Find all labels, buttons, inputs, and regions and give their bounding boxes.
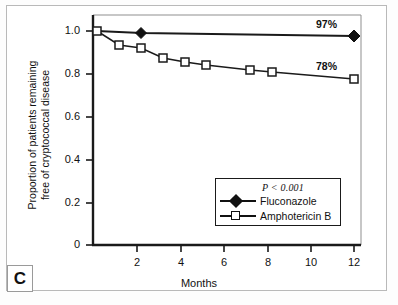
legend-entry-amphotericin-b: Amphotericin B xyxy=(216,209,340,223)
y-tick-label-0.8: 0.8 xyxy=(52,67,80,79)
x-tick-label-8: 8 xyxy=(258,256,278,268)
open-square-icon xyxy=(216,209,260,223)
x-tick-label-12: 12 xyxy=(344,256,364,268)
legend-entry-fluconazole: Fluconazole xyxy=(216,194,340,208)
filled-diamond-icon xyxy=(216,194,260,208)
legend-label-amphotericin-b: Amphotericin B xyxy=(260,210,331,222)
y-tick-label-0: 0 xyxy=(52,238,80,250)
annotation-fluconazole-97: 97% xyxy=(316,18,337,30)
annotation-amphotericin-78: 78% xyxy=(316,60,337,72)
y-axis-label: Proportion of patients remaining free of… xyxy=(26,35,52,235)
y-axis-label-line2: free of cryptococcal disease xyxy=(39,35,52,235)
y-tick-label-0.4: 0.4 xyxy=(52,153,80,165)
x-tick-label-10: 10 xyxy=(301,256,321,268)
x-tick-label-4: 4 xyxy=(171,256,191,268)
x-axis-label: Months xyxy=(0,277,398,289)
y-tick-label-0.6: 0.6 xyxy=(52,110,80,122)
panel-label: C xyxy=(7,265,33,292)
y-axis-label-line1: Proportion of patients remaining xyxy=(26,35,39,235)
x-tick-label-6: 6 xyxy=(214,256,234,268)
legend-pvalue: P < 0.001 xyxy=(262,182,340,193)
y-tick-label-1.0: 1.0 xyxy=(52,24,80,36)
y-tick-label-0.2: 0.2 xyxy=(52,196,80,208)
figure-panel: 1.0 0.8 0.6 0.4 0.2 0 2 4 6 8 10 12 Prop… xyxy=(0,0,398,305)
legend-label-fluconazole: Fluconazole xyxy=(260,195,317,207)
chart-legend: P < 0.001 Fluconazole Amphotericin B xyxy=(215,178,341,226)
x-tick-label-2: 2 xyxy=(127,256,147,268)
